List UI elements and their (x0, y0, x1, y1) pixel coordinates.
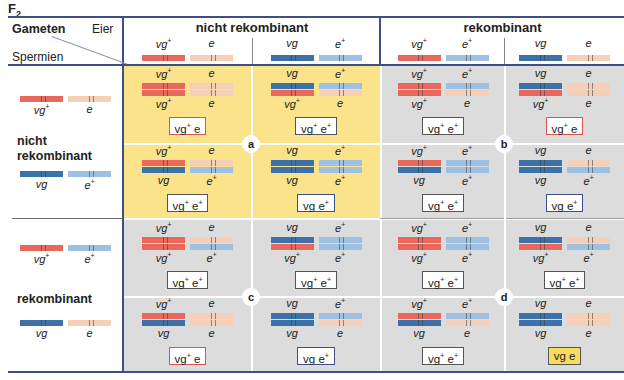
egg-chromosome-bar (271, 55, 314, 61)
cell-chromosome-bottom (519, 320, 562, 326)
cell-allele-top: e (182, 67, 242, 79)
egg-chromosome-bar (519, 55, 562, 61)
cell-chromosome-bottom (567, 244, 610, 250)
cell-allele-bottom: e (182, 327, 242, 339)
cell-chromosome-bottom (190, 244, 233, 250)
cell-allele-bottom: e+ (559, 251, 619, 264)
cell-chromosome-top (567, 237, 610, 243)
sperm-chromosome-bar (68, 245, 111, 251)
cell-chromosome-bottom (271, 90, 314, 96)
egg-chromosome-bar (398, 55, 441, 61)
egg-chromosome-bar (319, 55, 362, 61)
cell-allele-bottom: e+ (182, 251, 242, 264)
cell-chromosome-bottom (446, 167, 489, 173)
cell-chromosome-top (398, 83, 441, 89)
cell-chromosome-top (567, 313, 610, 319)
phenotype-box: vg+ e (169, 347, 207, 365)
cell-allele-top: e (182, 297, 242, 309)
cell-allele-bottom: e+ (310, 251, 370, 264)
egg-allele-label: e+ (310, 37, 370, 50)
quadrant-label-a: a (242, 135, 260, 153)
cell-allele-bottom: e+ (310, 174, 370, 187)
cell-chromosome-bottom (271, 320, 314, 326)
cell-chromosome-top (142, 83, 185, 89)
cell-chromosome-bottom (319, 167, 362, 173)
cell-chromosome-bottom (142, 244, 185, 250)
cell-chromosome-bottom (398, 244, 441, 250)
cell-allele-top: e (182, 221, 242, 233)
phenotype-box: vg e+ (297, 347, 335, 365)
cell-chromosome-top (398, 160, 441, 166)
cell-allele-top: e (559, 144, 619, 156)
phenotype-box: vg+ e+ (422, 194, 464, 212)
cell-separator (251, 66, 253, 371)
cell-chromosome-top (567, 83, 610, 89)
cell-chromosome-bottom (519, 90, 562, 96)
cell-chromosome-top (319, 160, 362, 166)
cell-chromosome-bottom (398, 167, 441, 173)
cell-chromosome-top (190, 237, 233, 243)
cell-allele-top: e+ (437, 221, 497, 234)
cell-chromosome-bottom (142, 90, 185, 96)
cell-chromosome-bottom (446, 90, 489, 96)
cell-chromosome-bottom (519, 167, 562, 173)
cell-allele-bottom: e+ (437, 251, 497, 264)
cell-allele-bottom: e (559, 327, 619, 339)
group-title-nicht-rekombinant: nicht rekombinant (124, 20, 380, 35)
sperm-chromosome-bar (20, 245, 63, 251)
sperm-chromosome-bar (20, 171, 63, 177)
egg-allele-label: e (182, 37, 242, 49)
cell-allele-top: e (182, 144, 242, 156)
cell-chromosome-bottom (567, 90, 610, 96)
cell-chromosome-top (271, 237, 314, 243)
bottom-rule (8, 371, 624, 373)
sperm-chromosome-bar (68, 320, 111, 326)
cell-chromosome-bottom (142, 167, 185, 173)
cell-chromosome-top (319, 313, 362, 319)
sperm-chromosome-bar (20, 96, 63, 102)
cell-chromosome-bottom (319, 320, 362, 326)
cell-chromosome-top (446, 237, 489, 243)
phenotype-box: vg+ e+ (295, 271, 337, 289)
cell-chromosome-bottom (519, 244, 562, 250)
cell-chromosome-top (142, 313, 185, 319)
egg-allele-label: e (559, 37, 619, 49)
cell-allele-bottom: e (437, 97, 497, 109)
phenotype-box: vg+ e+ (422, 271, 464, 289)
sperm-allele-label: e (60, 103, 120, 115)
quadrant-label-c: c (242, 288, 260, 306)
cell-chromosome-top (142, 160, 185, 166)
sperm-chromosome-bar (20, 320, 63, 326)
phenotype-box: vg+ e+ (422, 347, 464, 365)
cell-separator (504, 66, 506, 371)
cell-allele-top: e+ (310, 221, 370, 234)
cell-allele-top: e+ (437, 297, 497, 310)
cell-chromosome-top (271, 83, 314, 89)
cell-chromosome-top (319, 237, 362, 243)
cell-chromosome-top (190, 313, 233, 319)
cell-chromosome-top (446, 160, 489, 166)
cell-allele-bottom: e+ (559, 174, 619, 187)
cell-chromosome-bottom (398, 320, 441, 326)
phenotype-box: vg+ e (546, 117, 584, 135)
sperm-allele-label: e+ (60, 252, 120, 265)
cell-chromosome-bottom (190, 90, 233, 96)
cell-allele-top: e+ (310, 297, 370, 310)
phenotype-box: vg+ e+ (167, 194, 209, 212)
cell-chromosome-bottom (271, 244, 314, 250)
top-rule (8, 16, 624, 18)
cell-allele-bottom: e (310, 327, 370, 339)
cell-chromosome-top (567, 160, 610, 166)
cell-chromosome-top (142, 237, 185, 243)
cell-allele-top: e+ (437, 144, 497, 157)
cell-allele-top: e+ (310, 144, 370, 157)
cell-chromosome-top (190, 160, 233, 166)
subcolumn-divider (252, 38, 253, 64)
cell-chromosome-top (319, 83, 362, 89)
cell-chromosome-bottom (567, 320, 610, 326)
cell-allele-bottom: e (559, 97, 619, 109)
cell-chromosome-bottom (446, 320, 489, 326)
egg-allele-label: e+ (437, 37, 497, 50)
row-group-label-rekombinant: rekombinant (17, 292, 92, 307)
phenotype-box: vg+ e+ (544, 271, 586, 289)
